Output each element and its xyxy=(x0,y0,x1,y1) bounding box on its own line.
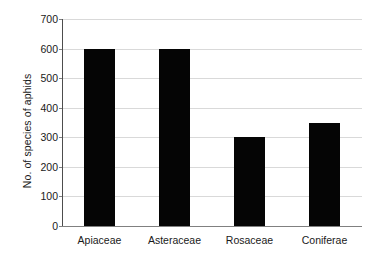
gridline xyxy=(62,19,362,20)
y-tick-mark xyxy=(59,196,62,197)
y-tick-label: 0 xyxy=(18,221,58,231)
y-axis-line xyxy=(62,19,63,227)
y-tick-label: 500 xyxy=(18,73,58,83)
y-tick-mark xyxy=(59,167,62,168)
x-axis-label-coniferae: Coniferae xyxy=(287,234,362,247)
bar-chart-figure: No. of species of aphids 010020030040050… xyxy=(0,0,376,262)
bar-asteraceae[interactable] xyxy=(159,49,190,226)
y-tick-mark xyxy=(59,49,62,50)
y-tick-label: 100 xyxy=(18,191,58,201)
x-axis-label-rosaceae: Rosaceae xyxy=(212,234,287,247)
x-axis-label-asteraceae: Asteraceae xyxy=(137,234,212,247)
y-tick-mark xyxy=(59,19,62,20)
bar-rosaceae[interactable] xyxy=(234,137,265,226)
y-tick-mark xyxy=(59,226,62,227)
y-tick-mark xyxy=(59,108,62,109)
bar-coniferae[interactable] xyxy=(309,123,340,227)
y-tick-label: 400 xyxy=(18,103,58,113)
x-axis-line xyxy=(62,226,362,227)
y-tick-label: 200 xyxy=(18,162,58,172)
y-tick-mark xyxy=(59,137,62,138)
y-tick-label: 700 xyxy=(18,14,58,24)
y-tick-label: 300 xyxy=(18,132,58,142)
bar-apiaceae[interactable] xyxy=(84,49,115,226)
y-axis-title-container: No. of species of aphids xyxy=(16,0,38,240)
y-tick-mark xyxy=(59,78,62,79)
x-axis-label-apiaceae: Apiaceae xyxy=(62,234,137,247)
plot-area xyxy=(62,19,362,226)
y-tick-label: 600 xyxy=(18,44,58,54)
